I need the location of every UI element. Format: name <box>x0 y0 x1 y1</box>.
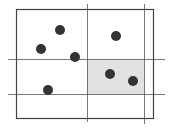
data-point <box>55 25 65 35</box>
data-point <box>128 76 138 86</box>
partition-diagram <box>0 0 170 137</box>
shaded-cell <box>87 59 144 94</box>
data-point <box>43 85 53 95</box>
data-point <box>105 69 115 79</box>
data-point <box>111 31 121 41</box>
shaded-region <box>87 59 144 94</box>
data-point <box>36 44 46 54</box>
data-point <box>70 52 80 62</box>
